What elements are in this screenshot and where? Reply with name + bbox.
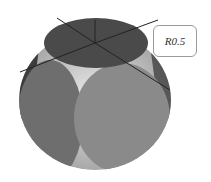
radius-label: R0.5 <box>153 25 197 57</box>
right-face <box>74 63 170 173</box>
left-face <box>17 60 83 180</box>
